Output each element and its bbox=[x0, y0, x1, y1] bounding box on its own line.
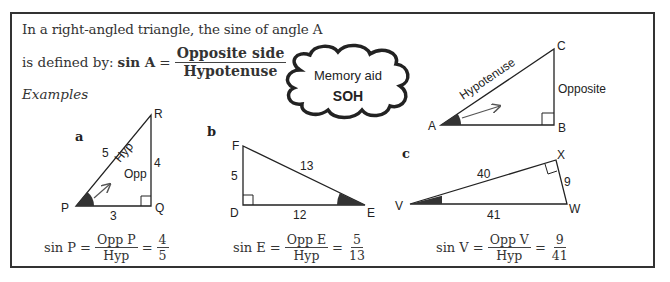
formula-b: sin E = Opp E Hyp = 5 13 bbox=[233, 232, 367, 263]
memory-aid-mnemonic: SOH bbox=[286, 88, 410, 104]
formula-value: 9 41 bbox=[550, 232, 570, 263]
ratio-numerator: Opp P bbox=[95, 232, 138, 248]
ratio-denominator: Hyp bbox=[101, 248, 131, 263]
side-adj-value: 3 bbox=[110, 209, 117, 223]
memory-aid: Memory aid SOH bbox=[286, 68, 410, 104]
vertex-q-label: Q bbox=[155, 201, 164, 215]
equals-sign: = bbox=[270, 240, 281, 255]
formula-lhs: sin E bbox=[233, 240, 266, 255]
formula-a: sin P = Opp P Hyp = 4 5 bbox=[44, 232, 169, 263]
ratio-denominator: Hyp bbox=[494, 248, 524, 263]
vertex-w-label: W bbox=[569, 202, 581, 216]
vertex-d-label: D bbox=[230, 206, 239, 220]
side-hyp-value: 5 bbox=[102, 146, 109, 160]
ratio-numerator: Opp V bbox=[488, 232, 531, 248]
formula-lhs: sin V bbox=[436, 240, 469, 255]
vertex-x-label: X bbox=[557, 148, 565, 162]
vertex-p-label: P bbox=[61, 201, 69, 215]
main-triangle: A B C Hypotenuse Opposite bbox=[428, 39, 606, 135]
formula-ratio: Opp P Hyp bbox=[95, 232, 138, 263]
side-opp-value: 5 bbox=[231, 169, 238, 183]
ratio-denominator: Hyp bbox=[291, 248, 321, 263]
value-denominator: 41 bbox=[550, 248, 570, 263]
side-adj-value: 12 bbox=[293, 208, 307, 222]
formula-ratio: Opp V Hyp bbox=[488, 232, 531, 263]
opp-label: Opp bbox=[124, 167, 147, 181]
vertex-f-label: F bbox=[232, 139, 239, 153]
equals-sign: = bbox=[142, 240, 153, 255]
value-denominator: 5 bbox=[157, 248, 169, 263]
example-b-tag: b bbox=[207, 124, 216, 139]
side-opp-value: 4 bbox=[154, 156, 161, 170]
value-numerator: 4 bbox=[157, 232, 169, 248]
equals-sign: = bbox=[332, 240, 343, 255]
opposite-label: Opposite bbox=[558, 82, 606, 96]
vertex-e-label: E bbox=[367, 206, 375, 220]
example-a-triangle: a P Q R 5 4 3 Hyp Opp bbox=[61, 107, 164, 223]
ratio-numerator: Opp E bbox=[285, 232, 328, 248]
vertex-b-label: B bbox=[558, 121, 566, 135]
side-hyp-value: 41 bbox=[487, 208, 501, 222]
equals-sign: = bbox=[80, 240, 91, 255]
memory-aid-label: Memory aid bbox=[286, 68, 410, 83]
value-numerator: 5 bbox=[351, 232, 363, 248]
example-b-triangle: b F D E 5 13 12 bbox=[207, 124, 375, 222]
equals-sign: = bbox=[473, 240, 484, 255]
example-a-tag: a bbox=[75, 129, 84, 144]
example-c-triangle: c V W X 40 9 41 bbox=[395, 146, 581, 222]
example-c-tag: c bbox=[402, 146, 410, 161]
vertex-c-label: C bbox=[557, 39, 566, 53]
vertex-v-label: V bbox=[395, 199, 403, 213]
equals-sign: = bbox=[535, 240, 546, 255]
formula-value: 5 13 bbox=[347, 232, 367, 263]
formula-value: 4 5 bbox=[157, 232, 169, 263]
formula-ratio: Opp E Hyp bbox=[285, 232, 328, 263]
side-adj-value: 40 bbox=[477, 167, 491, 181]
vertex-a-label: A bbox=[428, 119, 436, 133]
formula-c: sin V = Opp V Hyp = 9 41 bbox=[436, 232, 570, 263]
side-hyp-value: 13 bbox=[300, 159, 314, 173]
hyp-label: Hyp bbox=[112, 139, 137, 165]
side-opp-value: 9 bbox=[564, 175, 571, 189]
formula-lhs: sin P bbox=[44, 240, 76, 255]
value-denominator: 13 bbox=[347, 248, 367, 263]
vertex-r-label: R bbox=[154, 107, 163, 121]
value-numerator: 9 bbox=[554, 232, 566, 248]
